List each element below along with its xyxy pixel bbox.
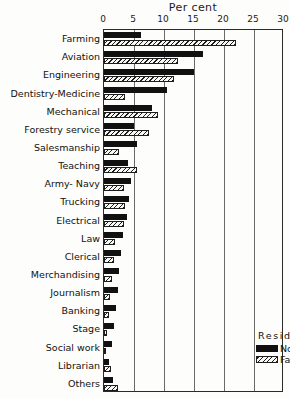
bar-farm [104, 276, 112, 282]
category-label: Social work [46, 343, 104, 353]
bar-row: Forestry service [104, 121, 284, 139]
chart-title: Per cent [103, 1, 283, 14]
bar-non-farm [104, 268, 119, 274]
bar-row: Trucking [104, 193, 284, 211]
category-label: Journalism [50, 288, 104, 298]
bar-farm [104, 76, 174, 82]
bar-non-farm [104, 377, 113, 383]
category-label: Mechanical [47, 107, 104, 117]
bar-farm [104, 385, 118, 391]
x-tick-30: 30 [277, 14, 288, 24]
plot-area: FarmingAviationEngineeringDentistry-Medi… [103, 29, 283, 392]
bar-row: Merchandising [104, 266, 284, 284]
bar-farm [104, 149, 119, 155]
category-label: Forestry service [24, 125, 104, 135]
bar-row: Law [104, 230, 284, 248]
legend-label-farm: Farm [280, 354, 290, 365]
category-label: Electrical [56, 216, 104, 226]
category-label: Librarian [58, 361, 104, 371]
bar-farm [104, 94, 125, 100]
bar-row: Engineering [104, 66, 284, 84]
bar-farm [104, 239, 115, 245]
category-label: Others [68, 379, 104, 389]
category-label: Clerical [65, 252, 104, 262]
category-label: Merchandising [31, 270, 104, 280]
bar-row: Mechanical [104, 103, 284, 121]
legend-title: Residence [258, 330, 290, 341]
category-label: Farming [62, 34, 104, 44]
bar-row: Journalism [104, 284, 284, 302]
category-label: Teaching [58, 161, 104, 171]
legend-label-non-farm: Non-farm [280, 343, 290, 354]
bar-farm [104, 221, 124, 227]
bar-farm [104, 58, 178, 64]
legend-item-non-farm: Non-farm [256, 343, 290, 354]
bar-row: Teaching [104, 157, 284, 175]
bar-farm [104, 348, 106, 354]
bar-row: Clerical [104, 248, 284, 266]
legend: Residence Non-farm Farm [256, 330, 290, 365]
bar-farm [104, 366, 111, 372]
legend-item-farm: Farm [256, 354, 290, 365]
category-label: Banking [61, 306, 104, 316]
x-tick-10: 10 [157, 14, 168, 24]
x-tick-5: 5 [130, 14, 136, 24]
bar-non-farm [104, 359, 109, 365]
bar-chart: Per cent 051015202530 FarmingAviationEng… [0, 0, 290, 399]
bar-farm [104, 294, 110, 300]
bar-farm [104, 167, 137, 173]
bar-non-farm [104, 214, 127, 220]
bar-non-farm [104, 287, 118, 293]
x-tick-25: 25 [247, 14, 258, 24]
bar-non-farm [104, 341, 112, 347]
bar-non-farm [104, 160, 128, 166]
category-label: Dentistry-Medicine [11, 89, 104, 99]
bar-row: Aviation [104, 48, 284, 66]
bar-non-farm [104, 305, 116, 311]
bar-non-farm [104, 32, 141, 38]
x-tick-0: 0 [100, 14, 106, 24]
bar-non-farm [104, 105, 152, 111]
bar-non-farm [104, 141, 137, 147]
category-label: Stage [73, 324, 104, 334]
bar-non-farm [104, 123, 134, 129]
bar-farm [104, 203, 125, 209]
legend-swatch-farm [256, 356, 278, 363]
legend-swatch-non-farm [256, 345, 278, 352]
bar-non-farm [104, 69, 194, 75]
bar-farm [104, 257, 114, 263]
x-tick-20: 20 [217, 14, 228, 24]
bar-row: Farming [104, 30, 284, 48]
bar-row: Electrical [104, 212, 284, 230]
bar-row: Dentistry-Medicine [104, 84, 284, 102]
bar-row: Others [104, 375, 284, 393]
bar-farm [104, 330, 107, 336]
bar-farm [104, 130, 149, 136]
category-label: Engineering [43, 70, 104, 80]
category-label: Law [81, 234, 104, 244]
bar-row: Banking [104, 302, 284, 320]
bar-farm [104, 40, 236, 46]
x-tick-15: 15 [187, 14, 198, 24]
bar-non-farm [104, 323, 114, 329]
bar-row: Army- Navy [104, 175, 284, 193]
category-label: Salesmanship [34, 143, 104, 153]
bar-non-farm [104, 250, 121, 256]
bar-farm [104, 185, 124, 191]
bar-non-farm [104, 87, 167, 93]
bar-non-farm [104, 232, 123, 238]
bar-farm [104, 112, 158, 118]
category-label: Army- Navy [44, 179, 104, 189]
category-label: Trucking [60, 197, 104, 207]
bar-row: Salesmanship [104, 139, 284, 157]
category-label: Aviation [62, 52, 104, 62]
bar-non-farm [104, 51, 203, 57]
bar-farm [104, 312, 109, 318]
bar-non-farm [104, 178, 131, 184]
bar-non-farm [104, 196, 129, 202]
